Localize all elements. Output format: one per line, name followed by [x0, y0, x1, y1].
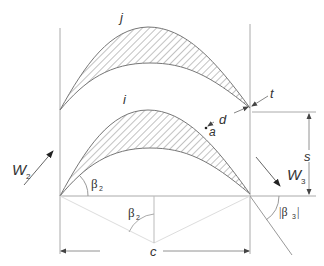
- inlet-velocity-sub: 2: [26, 172, 31, 181]
- cascade-diagram: c s β 2 β 2 |β 3 | W 2 W 3 t d a j i: [0, 0, 324, 266]
- inlet-angle-sub: 2: [99, 185, 103, 192]
- chord-label: c: [150, 244, 157, 259]
- blade-i-label: i: [123, 92, 127, 107]
- exit-velocity-sub: 3: [301, 177, 306, 186]
- blade-j: [60, 27, 250, 110]
- exit-velocity-arrow: [256, 157, 280, 186]
- pitch-label: s: [304, 149, 311, 164]
- inlet-angle-label: β: [91, 176, 98, 191]
- te-thickness-arrow: [252, 96, 268, 106]
- exit-angle-sub: 3: [292, 213, 296, 220]
- chord-construction-right: [154, 196, 250, 243]
- stagger-angle-label: β: [128, 205, 135, 220]
- te-thickness-label: t: [270, 86, 275, 101]
- stagger-angle-sub: 2: [136, 214, 140, 221]
- inlet-angle-arc: [80, 176, 88, 196]
- exit-angle-arc: [266, 196, 279, 220]
- exit-angle-label: |β: [279, 205, 288, 219]
- throat-line-upper: [234, 107, 248, 113]
- throat-label: d: [219, 112, 227, 127]
- throat-point-label: a: [209, 125, 216, 139]
- throat-point: [205, 127, 208, 130]
- blade-j-label: j: [118, 10, 124, 25]
- exit-angle-close: |: [297, 205, 299, 219]
